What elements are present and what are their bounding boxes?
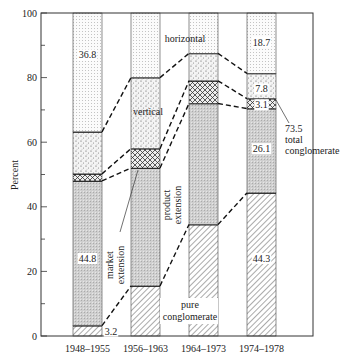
x-axis-labels: 1948–19551956–19631964–19731974–1978 (65, 343, 284, 354)
connector-line (160, 53, 189, 77)
x-tick-label: 1956–1963 (123, 343, 168, 354)
bar-segment (131, 149, 160, 168)
bar-segment (189, 53, 218, 80)
bar-segment (73, 174, 102, 181)
svg-text:conglomerate: conglomerate (163, 311, 218, 322)
bar-segment (131, 168, 160, 286)
y-tick-label: 100 (22, 8, 37, 19)
y-tick-label: 20 (27, 266, 37, 277)
y-tick-label: 60 (27, 137, 37, 148)
annotation-horizontal: horizontal (165, 33, 206, 44)
data-label: 26.1 (253, 143, 271, 154)
bar-segment (73, 132, 102, 174)
x-tick-label: 1964–1973 (181, 343, 226, 354)
annotation-pure-conglomerate: pure conglomerate (160, 298, 218, 324)
connector-line (218, 81, 247, 99)
connector-line (160, 103, 189, 168)
bar-segment (73, 326, 102, 336)
data-label: 3.2 (105, 326, 118, 337)
x-tick-label: 1948–1955 (65, 343, 110, 354)
x-tick-label: 1974–1978 (239, 343, 284, 354)
connector-line (218, 53, 247, 73)
y-tick-label: 40 (27, 201, 37, 212)
svg-text:total: total (285, 134, 303, 145)
bars-group (73, 13, 276, 336)
connector-line (160, 225, 189, 286)
data-label: 18.7 (253, 37, 271, 48)
annotation-product-extension: product extension (161, 186, 183, 224)
svg-text:73.5: 73.5 (285, 123, 303, 134)
stacked-bar-chart: 020406080100 1948–19551956–19631964–1973… (0, 0, 350, 360)
y-tick-label: 80 (27, 72, 37, 83)
data-label: 3.1 (255, 99, 268, 110)
data-label: 7.8 (255, 83, 268, 94)
data-label: 44.8 (79, 253, 97, 264)
y-axis: 020406080100 (22, 8, 47, 342)
svg-text:extension: extension (172, 186, 183, 224)
bar-segment (189, 103, 218, 224)
bar-segment (131, 286, 160, 336)
bar-segment (189, 81, 218, 104)
bar-segment (247, 193, 276, 336)
svg-text:pure: pure (181, 299, 199, 310)
bar-segment (73, 13, 102, 132)
connector-line (218, 103, 247, 108)
svg-text:extension: extension (115, 246, 126, 284)
connector-line (218, 193, 247, 225)
annotation-vertical: vertical (133, 106, 163, 117)
data-label: 44.3 (253, 253, 271, 264)
connector-line (102, 168, 131, 181)
svg-text:product: product (161, 190, 172, 221)
bar-segment (131, 13, 160, 78)
y-tick-label: 0 (32, 331, 37, 342)
connector-line (102, 78, 131, 132)
data-label: 36.8 (79, 49, 97, 60)
svg-text:market: market (104, 251, 115, 279)
y-axis-label: Percent (9, 160, 20, 190)
connector-line (102, 286, 131, 326)
annotation-total-conglomerate: 73.5 total conglomerate (276, 100, 340, 156)
svg-text:conglomerate: conglomerate (285, 145, 340, 156)
